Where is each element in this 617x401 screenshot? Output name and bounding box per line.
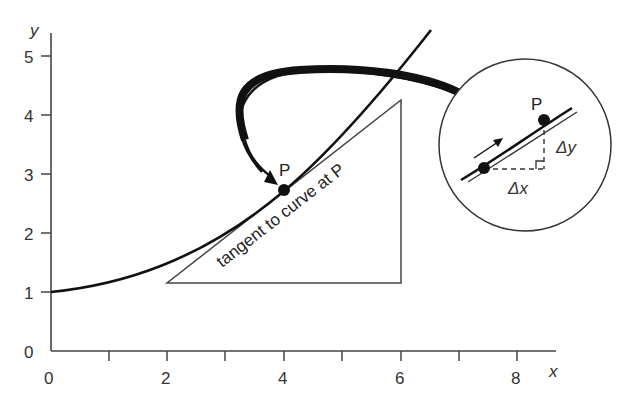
x-tick-label-8: 8 [511,369,520,388]
x-ticks [109,351,517,361]
y-tick-label-4: 4 [24,107,33,126]
x-tick-label-2: 2 [161,369,170,388]
y-tick-label-0: 0 [24,343,33,362]
y-ticks [41,56,51,292]
tangent-diagram: 0 1 2 3 4 5 0 2 4 6 8 y x tangent to cur… [0,0,617,401]
y-tick-label-5: 5 [24,48,33,67]
point-p-label: P [279,161,290,180]
magnified-inset: P Δy Δx [439,59,611,231]
x-tick-label-4: 4 [278,369,287,388]
inset-p-label: P [531,95,542,114]
x-axis-name: x [548,362,558,381]
y-tick-label-1: 1 [24,284,33,303]
y-axis-name: y [29,21,40,40]
inset-point-p [538,114,550,126]
x-tick-label-6: 6 [395,369,404,388]
y-tick-label-2: 2 [24,225,33,244]
inset-dx-label: Δx [507,179,528,198]
x-tick-label-0: 0 [44,369,53,388]
zoom-arrow-path [240,71,458,172]
y-tick-label-3: 3 [24,166,33,185]
zoom-arrow-thin [245,140,270,176]
point-p [278,184,290,196]
inset-start-point [478,162,490,174]
inset-dy-label: Δy [555,138,577,157]
